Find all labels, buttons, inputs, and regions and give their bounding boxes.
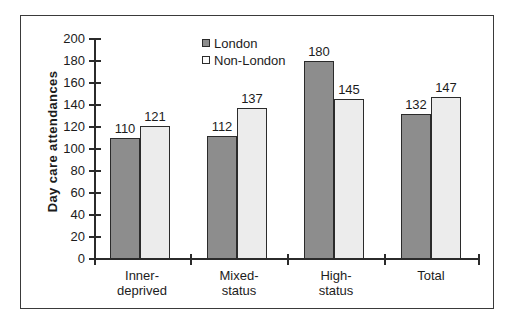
bar-chart-plot-area: Day care attendances 200 180 160 140 120… bbox=[21, 16, 495, 310]
y-axis-tick-label: 140 bbox=[45, 98, 85, 111]
empty-white-square-icon bbox=[202, 56, 210, 64]
bar-non-london-total bbox=[431, 97, 461, 259]
y-axis-tick bbox=[89, 214, 101, 216]
bar-value-label: 145 bbox=[323, 83, 375, 96]
y-axis-tick-label: 200 bbox=[45, 32, 85, 45]
y-axis-tick-label: 100 bbox=[45, 142, 85, 155]
bar-non-london-high-status bbox=[334, 99, 364, 259]
bar-non-london-mixed-status bbox=[237, 108, 267, 259]
bar-value-label: 147 bbox=[420, 81, 472, 94]
bar-non-london-inner-deprived bbox=[140, 126, 170, 259]
y-axis-tick bbox=[89, 104, 101, 106]
x-axis-tick bbox=[190, 254, 192, 265]
bar-value-label: 180 bbox=[293, 45, 345, 58]
bar-london-mixed-status bbox=[207, 136, 237, 259]
bar-london-total bbox=[401, 114, 431, 259]
y-axis-tick-label: 40 bbox=[45, 208, 85, 221]
y-axis-tick-label: 160 bbox=[45, 76, 85, 89]
y-axis-tick bbox=[89, 82, 101, 84]
x-axis-tick bbox=[94, 254, 96, 265]
x-axis-category-line-1: Total bbox=[371, 268, 491, 283]
x-axis-tick bbox=[287, 254, 289, 265]
legend-item-non-london: Non-London bbox=[202, 52, 286, 68]
filled-gray-square-icon bbox=[202, 39, 210, 47]
y-axis-tick bbox=[89, 38, 101, 40]
y-axis-tick bbox=[89, 236, 101, 238]
legend-item-london: London bbox=[202, 35, 286, 51]
y-axis-tick bbox=[89, 148, 101, 150]
chart-figure-frame: Day care attendances 200 180 160 140 120… bbox=[20, 15, 494, 309]
y-axis-tick-label: 80 bbox=[45, 164, 85, 177]
bar-value-label: 137 bbox=[226, 92, 278, 105]
legend-item-label: Non-London bbox=[214, 54, 286, 67]
bar-value-label: 121 bbox=[129, 110, 181, 123]
y-axis-tick bbox=[89, 60, 101, 62]
y-axis-tick-label: 60 bbox=[45, 186, 85, 199]
bar-london-inner-deprived bbox=[110, 138, 140, 259]
x-axis-tick bbox=[384, 254, 386, 265]
y-axis-tick-label: 180 bbox=[45, 54, 85, 67]
legend-item-label: London bbox=[214, 37, 257, 50]
y-axis-tick bbox=[89, 192, 101, 194]
x-axis-tick bbox=[478, 254, 480, 265]
x-axis-category-line-2: status bbox=[276, 283, 396, 298]
y-axis-tick-label: 120 bbox=[45, 120, 85, 133]
y-axis-tick-label: 20 bbox=[45, 230, 85, 243]
chart-legend: London Non-London bbox=[202, 35, 286, 69]
y-axis-tick-label: 0 bbox=[45, 252, 85, 265]
y-axis-tick bbox=[89, 170, 101, 172]
x-axis-category-label-total: Total bbox=[371, 268, 491, 283]
